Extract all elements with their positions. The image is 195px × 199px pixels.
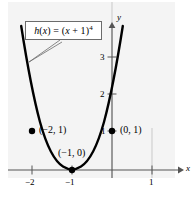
point-marker-0-1 <box>109 128 115 134</box>
y-tick-label-2: 2 <box>100 90 105 99</box>
point-label-minus2-1: (−2, 1) <box>39 125 66 135</box>
x-tick-label-1: 1 <box>149 178 154 187</box>
equation-label-box: h(x) = (x + 1)4 <box>25 21 102 40</box>
x-axis-label: x <box>186 164 190 173</box>
point-marker-minus2-1 <box>29 128 35 134</box>
point-marker-minus1-0 <box>69 167 75 173</box>
equation-text: h(x) = (x + 1)4 <box>34 25 93 36</box>
x-axis-arrow <box>178 167 184 174</box>
point-label-minus1-0: (−1, 0) <box>58 148 85 158</box>
y-tick-label-3: 3 <box>100 53 105 62</box>
equation-exponent: 4 <box>89 24 93 32</box>
x-tick-label-minus1: −1 <box>65 178 75 187</box>
x-tick-label-minus2: −2 <box>25 178 35 187</box>
point-label-0-1: (0, 1) <box>120 125 142 135</box>
y-tick-label-1: 1 <box>101 127 106 136</box>
graph-figure: h(x) = (x + 1)4 y x −2 −1 1 1 2 3 (−2, 1… <box>0 0 195 199</box>
y-axis-label: y <box>117 13 121 22</box>
